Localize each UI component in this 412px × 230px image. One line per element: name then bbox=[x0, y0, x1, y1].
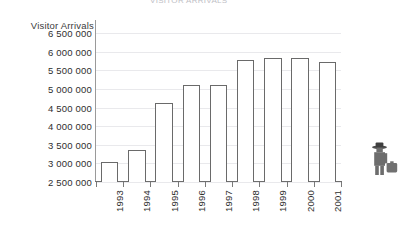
gridline bbox=[96, 52, 341, 53]
x-axis-tick-mark bbox=[341, 182, 342, 187]
bar-1995 bbox=[155, 103, 173, 182]
bar-1996 bbox=[183, 85, 201, 182]
x-axis-label-1996: 1996 bbox=[196, 190, 207, 212]
y-axis-tick-label: 3 500 000 bbox=[6, 139, 92, 150]
x-axis-label-2001: 2001 bbox=[332, 190, 343, 212]
y-axis-tick-label: 5 000 000 bbox=[6, 83, 92, 94]
x-axis-label-2000: 2000 bbox=[305, 190, 316, 212]
bar-1999 bbox=[264, 58, 282, 182]
gridline bbox=[96, 182, 341, 183]
x-axis-label-1998: 1998 bbox=[250, 190, 261, 212]
gridline bbox=[96, 33, 341, 34]
plot-area bbox=[96, 33, 341, 182]
bar-2001 bbox=[319, 62, 337, 182]
x-axis-label-1999: 1999 bbox=[277, 190, 288, 212]
chart-screenshot: VISITOR ARRIVALS Visitor Arrivals 6 500 … bbox=[0, 0, 412, 230]
bar-2000 bbox=[291, 58, 309, 182]
y-axis-tick-label: 5 500 000 bbox=[6, 65, 92, 76]
chart-title: VISITOR ARRIVALS bbox=[150, 0, 350, 3]
x-axis-label-1993: 1993 bbox=[114, 190, 125, 212]
x-axis-label-1994: 1994 bbox=[141, 190, 152, 212]
traveler-with-suitcase-icon bbox=[368, 140, 402, 176]
x-axis-tick-mark bbox=[205, 182, 206, 187]
x-axis-tick-mark bbox=[96, 182, 97, 187]
x-axis-tick-mark bbox=[314, 182, 315, 187]
x-axis-tick-mark bbox=[232, 182, 233, 187]
x-axis-tick-mark bbox=[150, 182, 151, 187]
y-axis-tick-label: 4 000 000 bbox=[6, 121, 92, 132]
y-axis-tick-label: 6 000 000 bbox=[6, 46, 92, 57]
bar-1994 bbox=[128, 150, 146, 182]
x-axis-tick-mark bbox=[178, 182, 179, 187]
y-axis-tick-label: 2 500 000 bbox=[6, 177, 92, 188]
x-axis-tick-mark bbox=[259, 182, 260, 187]
x-axis-tick-mark bbox=[123, 182, 124, 187]
bar-1997 bbox=[210, 85, 228, 182]
bar-1998 bbox=[237, 60, 255, 182]
y-axis-tick-label: 6 500 000 bbox=[6, 28, 92, 39]
y-axis-tick-label: 3 000 000 bbox=[6, 158, 92, 169]
x-axis-tick-mark bbox=[287, 182, 288, 187]
x-axis-label-1997: 1997 bbox=[223, 190, 234, 212]
x-axis-label-1995: 1995 bbox=[169, 190, 180, 212]
bar-1993 bbox=[101, 162, 119, 182]
y-axis-tick-labels: 6 500 0006 000 0005 500 0005 000 0004 50… bbox=[0, 0, 92, 230]
y-axis-tick-label: 4 500 000 bbox=[6, 102, 92, 113]
